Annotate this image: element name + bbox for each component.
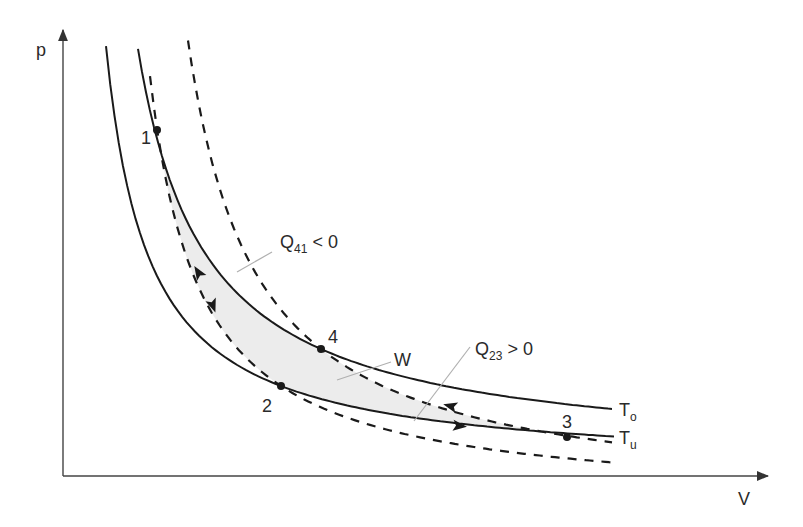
state-point-label-4: 4	[328, 327, 338, 347]
state-point-2	[277, 382, 285, 390]
state-point-4	[317, 345, 325, 353]
state-point-label-2: 2	[262, 396, 272, 416]
state-point-label-3: 3	[562, 412, 572, 432]
isotherm-To-curve	[138, 49, 612, 409]
adiabat-outer-curve	[188, 41, 612, 443]
annotation-q23: Q23 > 0	[475, 339, 533, 363]
temperature-label-o: To	[619, 400, 637, 424]
work-area-shading	[157, 129, 567, 436]
temperature-label-u: Tu	[619, 428, 637, 452]
axes-group: p V	[36, 30, 768, 509]
volume-axis-label: V	[738, 489, 750, 509]
state-point-label-1: 1	[141, 128, 151, 148]
annotation-q41: Q41 < 0	[280, 232, 338, 256]
pv-diagram: p V 1234 Q41 < 0WQ23 > 0ToTu	[0, 0, 803, 527]
state-point-1	[153, 126, 161, 134]
annotation-w: W	[394, 350, 411, 370]
pressure-axis-label: p	[36, 40, 46, 60]
state-point-3	[563, 433, 571, 441]
